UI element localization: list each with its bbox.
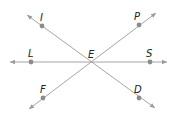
arrowhead-icon [151,13,156,18]
center-label-E: E [88,49,95,60]
point-label-L: L [28,48,34,59]
point-label-F: F [40,84,46,95]
arrowhead-icon [10,60,15,64]
point-label-S: S [146,48,153,59]
intersecting-lines-diagram: E I P L S F D [0,0,173,118]
arrowhead-icon [150,103,155,108]
point-L [29,60,34,65]
point-P [137,23,142,28]
arrowhead-icon [29,104,34,109]
point-D [137,96,142,101]
point-I [40,24,45,29]
point-S [148,60,153,65]
point-label-D: D [134,84,142,95]
arrowhead-icon [27,15,32,20]
arrowhead-icon [162,60,167,64]
point-label-I: I [40,12,43,23]
lines-layer [10,13,167,109]
point-F [41,96,46,101]
point-label-P: P [134,11,141,22]
labels-layer: E I P L S F D [28,11,153,95]
